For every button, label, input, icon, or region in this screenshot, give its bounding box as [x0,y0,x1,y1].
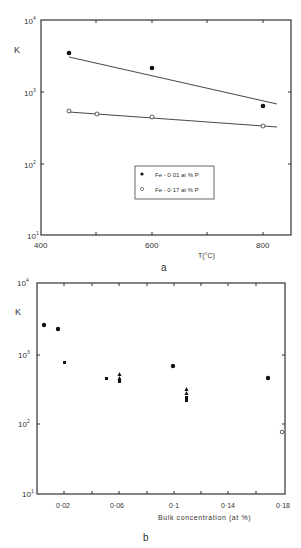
chart-b: 104 103 102 101 K 0·02 0·06 0·1 0·14 0·1… [15,277,290,543]
legend-entry-001: Fe - 0·01 at % P [155,172,199,178]
chart-b-xtick-002: 0·02 [56,502,70,509]
chart-b-panel-label: b [143,532,149,543]
chart-b-ytick-1e2: 102 [18,418,30,429]
chart-b-xtick-018: 0·18 [276,502,290,509]
legend-open-circle-icon [140,187,143,190]
figure: 104 103 102 101 K 400 600 800 T(°C) a Fe… [0,0,301,548]
chart-b-ticks [37,283,285,494]
chart-b-frame [37,283,285,494]
chart-a-panel-label: a [161,262,167,273]
chart-b-ylabel: K [15,307,21,317]
chart-a-xtick-600: 600 [145,241,159,250]
chart-a-ytick-1e3: 103 [24,87,36,98]
legend-filled-circle-icon [140,172,143,175]
chart-a-legend: Fe - 0·01 at % P Fe - 0·17 at % P [135,166,214,199]
chart-a: 104 103 102 101 K 400 600 800 T(°C) a Fe… [14,15,291,273]
chart-b-xlabel: Bulk concentration (at %) [158,514,251,522]
chart-b-ytick-1e4: 104 [17,277,29,288]
chart-a-series-017 [67,109,265,128]
chart-b-xtick-014: 0·14 [221,502,235,509]
chart-b-xtick-01: 0·1 [169,502,179,509]
chart-a-fit-line-001 [69,57,277,104]
chart-a-ytick-1e2: 102 [24,159,36,170]
chart-b-filled-circles [42,323,270,380]
legend-entry-017: Fe - 0·17 at % P [155,187,199,193]
chart-b-ytick-1e3: 103 [18,349,30,360]
chart-b-ytick-1e1: 101 [22,488,34,499]
chart-a-ytick-1e4: 104 [24,15,36,26]
chart-a-ytick-1e1: 101 [27,230,39,241]
chart-b-open-circle [280,430,284,434]
chart-b-xtick-006: 0·06 [110,502,124,509]
chart-b-filled-squares [63,361,188,402]
chart-a-xtick-800: 800 [256,241,270,250]
chart-a-fit-line-017 [69,112,277,127]
chart-a-xlabel: T(°C) [198,252,215,260]
chart-a-frame [41,20,291,235]
chart-a-xtick-400: 400 [34,241,48,250]
chart-a-ylabel: K [14,45,20,55]
chart-b-filled-triangles [118,372,189,395]
chart-a-yticks [41,20,291,235]
chart-a-series-001 [67,51,266,109]
